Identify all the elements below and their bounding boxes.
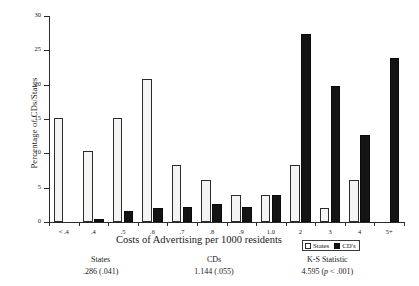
bar-states — [261, 195, 271, 222]
y-tick-label: 30 — [35, 11, 42, 18]
y-tick: 15 — [44, 119, 49, 120]
bar-cds — [301, 34, 311, 222]
x-tick-label: 4 — [358, 228, 361, 235]
x-tick — [286, 222, 287, 226]
bar-states — [320, 208, 330, 222]
y-tick: 30 — [44, 16, 49, 17]
y-axis-line — [49, 16, 50, 222]
y-tick-label: 5 — [38, 183, 41, 190]
stat-value-ks: 4.595 (p < .001) — [271, 266, 384, 278]
x-tick — [197, 222, 198, 226]
bar-cds — [94, 219, 104, 222]
legend-item-cds: CD's — [334, 242, 355, 249]
bar-cds — [331, 86, 341, 222]
x-tick — [374, 222, 375, 226]
stat-ks-prefix: 4.595 ( — [301, 267, 324, 276]
bar-states — [54, 118, 64, 222]
bar-cds — [360, 135, 370, 222]
y-tick: 5 — [44, 188, 49, 189]
x-tick-label: 5+ — [386, 228, 393, 235]
x-tick — [256, 222, 257, 226]
y-tick-label: 10 — [35, 148, 42, 155]
stat-ks-suffix: < .001) — [328, 267, 353, 276]
stat-label-cds: CDs — [157, 254, 270, 266]
bar-cds — [272, 195, 282, 222]
bar-states — [349, 180, 359, 222]
bar-cds — [212, 204, 222, 222]
stat-label-states: States — [44, 254, 157, 266]
legend-item-states: States — [305, 242, 329, 249]
bar-states — [113, 118, 123, 222]
x-tick — [227, 222, 228, 226]
x-tick — [345, 222, 346, 226]
bar-states — [201, 180, 211, 222]
stat-label-ks: K-S Statistic — [271, 254, 384, 266]
open-square-icon — [305, 243, 311, 249]
bar-cds — [390, 58, 400, 222]
y-tick-label: 20 — [35, 80, 42, 87]
statistics-footer: States .286 (.041) CDs 1.144 (.055) K-S … — [44, 254, 384, 277]
bar-states — [290, 165, 300, 222]
stat-block-cds: CDs 1.144 (.055) — [157, 254, 270, 277]
stat-block-ks: K-S Statistic 4.595 (p < .001) — [271, 254, 384, 277]
stat-block-states: States .286 (.041) — [44, 254, 157, 277]
bar-cds — [242, 207, 252, 222]
x-tick — [79, 222, 80, 226]
x-tick — [49, 222, 50, 226]
stat-value-cds: 1.144 (.055) — [157, 266, 270, 278]
chart-figure: Percentage of CDs/States 051015202530 < … — [0, 0, 419, 286]
plot-area: 051015202530 < .4.4.5.6.7.8.91.02345+ — [49, 16, 404, 222]
legend-label-cds: CD's — [342, 242, 355, 249]
y-tick: 10 — [44, 153, 49, 154]
legend-label-states: States — [313, 242, 329, 249]
filled-square-icon — [334, 243, 340, 249]
chart-legend: States CD's — [302, 240, 360, 251]
bar-states — [231, 195, 241, 222]
x-tick — [138, 222, 139, 226]
y-tick-label: 0 — [38, 217, 41, 224]
y-tick-label: 15 — [35, 114, 42, 121]
bar-states — [172, 165, 182, 222]
y-tick-label: 25 — [35, 45, 42, 52]
x-tick — [167, 222, 168, 226]
bar-cds — [153, 208, 163, 222]
x-tick — [404, 222, 405, 226]
bar-cds — [183, 207, 193, 222]
bar-states — [142, 79, 152, 222]
bar-cds — [124, 211, 134, 222]
y-tick: 25 — [44, 50, 49, 51]
x-tick — [108, 222, 109, 226]
bar-states — [83, 151, 93, 222]
stat-value-states: .286 (.041) — [44, 266, 157, 278]
x-tick — [315, 222, 316, 226]
y-tick: 20 — [44, 85, 49, 86]
